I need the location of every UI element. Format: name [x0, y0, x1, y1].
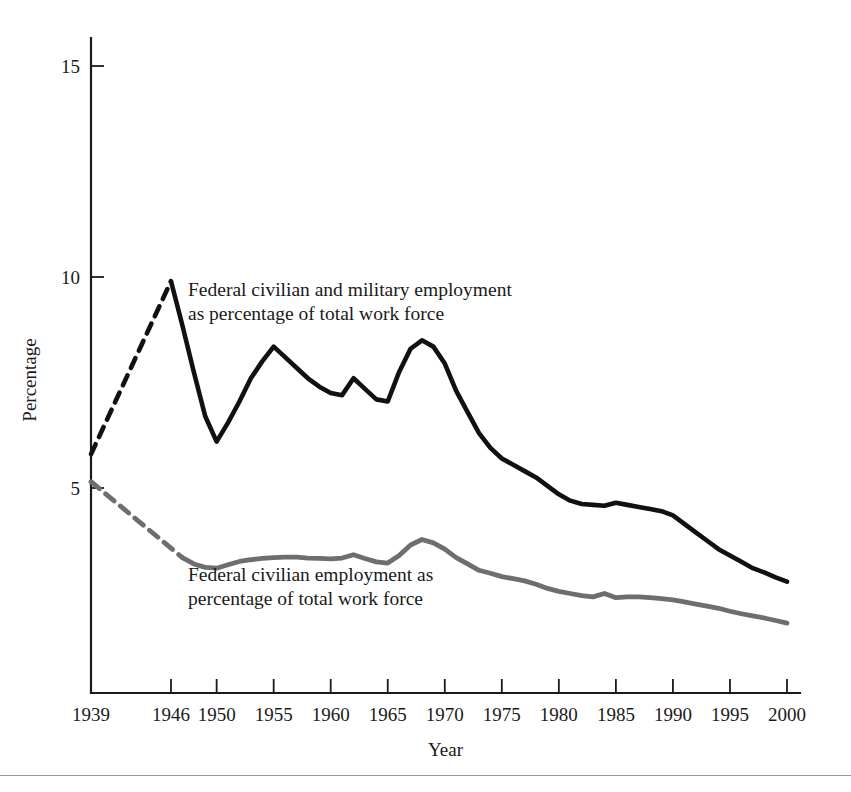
figure-page: 5101519391946195019551960196519701975198…: [0, 0, 851, 792]
x-axis-tick-label: 2000: [768, 704, 806, 725]
annotation-federal-total: Federal civilian and military employment…: [188, 279, 512, 324]
x-axis-tick-label: 1990: [654, 704, 692, 725]
x-axis-tick-label: 1980: [540, 704, 578, 725]
x-axis-tick-label: 1960: [312, 704, 350, 725]
x-axis-tick-label: 1995: [711, 704, 749, 725]
x-axis-tick-label: 1955: [255, 704, 293, 725]
annotation-federal-civilian-line1: Federal civilian employment as: [188, 564, 433, 585]
x-axis-tick-label: 1975: [483, 704, 521, 725]
series-line-dashed-0: [91, 281, 171, 454]
line-chart-svg: 5101519391946195019551960196519701975198…: [0, 0, 851, 760]
series-line-dashed-1: [91, 482, 182, 558]
annotation-federal-total-line1: Federal civilian and military employment: [188, 279, 512, 300]
y-axis-tick-label: 15: [61, 56, 80, 77]
annotation-federal-civilian-line2: percentage of total work force: [188, 588, 423, 609]
x-axis-tick-label: 1946: [152, 704, 190, 725]
chart-figure: 5101519391946195019551960196519701975198…: [0, 0, 851, 760]
y-axis-title: Percentage: [19, 338, 40, 421]
x-axis-tick-label: 1985: [597, 704, 635, 725]
x-axis-tick-label: 1939: [72, 704, 110, 725]
annotation-federal-total-line2: as percentage of total work force: [188, 303, 444, 324]
x-axis-tick-label: 1950: [198, 704, 236, 725]
y-axis-tick-label: 10: [61, 267, 80, 288]
x-axis-title: Year: [428, 739, 464, 760]
x-axis-tick-label: 1965: [369, 704, 407, 725]
axes-group: 5101519391946195019551960196519701975198…: [19, 38, 806, 760]
annotation-federal-civilian: Federal civilian employment aspercentage…: [188, 564, 433, 609]
x-axis-tick-label: 1970: [426, 704, 464, 725]
series-line-0: [171, 281, 787, 581]
footer-divider-rule: [0, 775, 851, 776]
y-axis-tick-label: 5: [71, 478, 81, 499]
